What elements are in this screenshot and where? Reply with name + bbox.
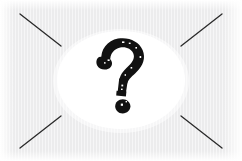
diagonal-bottom-right xyxy=(181,116,222,148)
question-mark-stem-foot xyxy=(116,91,126,97)
question-mark-dot xyxy=(115,99,130,113)
diagonal-bottom-left xyxy=(20,116,61,148)
diagonal-top-left xyxy=(20,14,61,46)
image-canvas: Bold hand-drawn black question mark insi… xyxy=(0,0,242,161)
question-mark-artwork xyxy=(0,0,242,161)
diagonal-top-right xyxy=(181,14,222,46)
